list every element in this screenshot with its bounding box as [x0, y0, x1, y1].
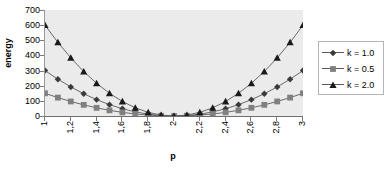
data-point-marker	[236, 107, 242, 113]
y-tick-mark	[40, 55, 44, 56]
data-point-marker	[45, 90, 48, 96]
legend-item: k = 0.5	[321, 61, 381, 77]
y-tick-label: 200	[16, 81, 40, 91]
x-tick-label: 1,4	[91, 121, 101, 134]
data-point-marker	[300, 90, 303, 96]
x-tick-label: 2,2	[194, 121, 204, 134]
x-tick-label: 1	[39, 121, 49, 126]
data-point-marker	[55, 76, 61, 82]
data-point-marker	[287, 95, 293, 101]
x-tick-label: 3	[297, 121, 307, 126]
data-point-marker	[81, 91, 87, 97]
series-canvas	[45, 10, 303, 116]
data-point-marker	[55, 95, 61, 101]
x-tick-label: 1,8	[142, 121, 152, 134]
data-point-marker	[235, 101, 241, 107]
data-point-marker	[106, 101, 112, 107]
x-tick-label: 2,8	[271, 121, 281, 134]
y-tick-label: 0	[16, 111, 40, 121]
data-point-marker	[106, 90, 113, 97]
data-point-marker	[120, 109, 126, 115]
legend-label: k = 1.0	[345, 48, 374, 58]
data-point-marker	[209, 104, 216, 111]
data-point-marker	[287, 76, 293, 82]
data-point-marker	[299, 22, 303, 29]
data-point-marker	[210, 111, 216, 116]
plot-area	[44, 10, 303, 117]
series-triangle	[45, 22, 303, 116]
y-tick-label: 400	[16, 50, 40, 60]
series-diamond	[45, 67, 303, 116]
y-tick-label: 100	[16, 96, 40, 106]
data-point-marker	[330, 66, 336, 72]
legend-label: k = 0.5	[345, 64, 374, 74]
data-point-marker	[196, 109, 203, 116]
x-tick-label: 1,2	[65, 121, 75, 134]
data-point-marker	[107, 107, 113, 113]
legend-marker-glyph	[326, 62, 340, 76]
y-tick-mark	[40, 116, 44, 117]
data-point-marker	[145, 109, 152, 116]
data-point-marker	[68, 99, 74, 105]
chart-root: energy 0100200300400500600700 11,21,41,6…	[0, 0, 392, 169]
x-axis-title: p	[44, 151, 302, 161]
legend-marker-glyph	[326, 46, 340, 60]
data-point-marker	[330, 50, 336, 56]
legend-label: k = 2.0	[345, 80, 374, 90]
x-tick-label: 1,6	[116, 121, 126, 134]
chart-legend: k = 1.0k = 0.5k = 2.0	[318, 41, 384, 95]
data-point-marker	[329, 81, 336, 88]
data-point-marker	[45, 22, 49, 29]
legend-item: k = 1.0	[321, 45, 381, 61]
data-point-marker	[132, 104, 139, 111]
y-tick-label: 600	[16, 20, 40, 30]
data-point-marker	[274, 84, 280, 90]
data-point-marker	[93, 96, 99, 102]
data-point-marker	[222, 98, 229, 105]
data-point-marker	[223, 109, 229, 115]
y-tick-mark	[40, 86, 44, 87]
legend-marker-triangle-icon	[321, 78, 345, 92]
y-tick-mark	[40, 25, 44, 26]
data-point-marker	[274, 99, 280, 105]
data-point-marker	[119, 98, 126, 105]
y-tick-mark	[40, 71, 44, 72]
legend-item: k = 2.0	[321, 77, 381, 93]
data-point-marker	[132, 111, 138, 116]
data-point-marker	[235, 90, 242, 97]
x-tick-label: 2	[168, 121, 178, 126]
y-tick-mark	[40, 101, 44, 102]
data-point-marker	[54, 39, 61, 46]
y-tick-label: 300	[16, 66, 40, 76]
data-point-marker	[248, 96, 254, 102]
y-tick-label: 500	[16, 35, 40, 45]
y-axis-title: energy	[3, 23, 13, 83]
data-point-marker	[261, 91, 267, 97]
y-tick-label: 700	[16, 5, 40, 15]
x-tick-label: 2,6	[245, 121, 255, 134]
data-point-marker	[68, 84, 74, 90]
x-tick-label: 2,4	[220, 121, 230, 134]
y-axis-tick-labels: 0100200300400500600700	[14, 10, 40, 116]
y-tick-mark	[40, 40, 44, 41]
data-point-marker	[94, 105, 100, 111]
data-point-marker	[81, 102, 87, 108]
data-point-marker	[287, 39, 294, 46]
y-tick-mark	[40, 10, 44, 11]
legend-marker-square-icon	[321, 62, 345, 76]
data-point-marker	[249, 105, 255, 111]
legend-marker-glyph	[326, 78, 340, 92]
legend-marker-diamond-icon	[321, 46, 345, 60]
data-point-marker	[261, 102, 267, 108]
